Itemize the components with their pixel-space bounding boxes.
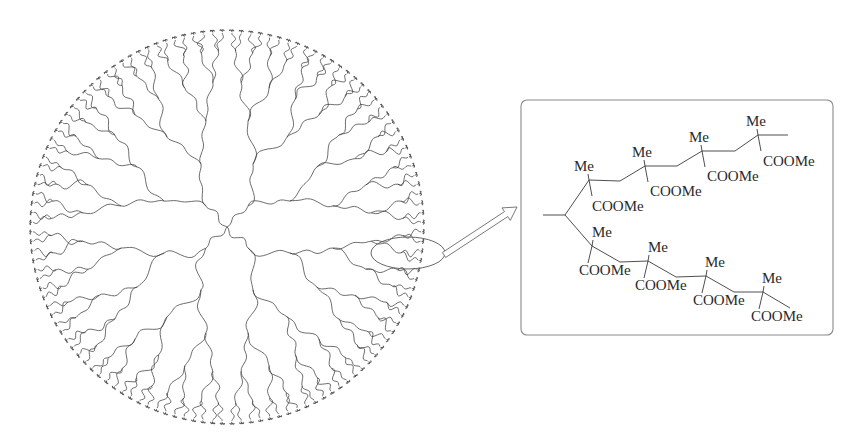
dendrimer-branch (247, 121, 256, 164)
dendrimer-branch (241, 371, 253, 401)
dendrimer-branch (339, 319, 368, 332)
ester-label: COOMe (751, 308, 803, 324)
terminal-group-icon (338, 386, 342, 389)
terminal-group-icon (55, 129, 58, 133)
dendrimer-branch (386, 302, 404, 307)
terminal-group-icon (210, 30, 214, 32)
terminal-group-icon (46, 146, 49, 150)
dendrimer-branch (53, 239, 83, 254)
dendrimer-branch (58, 131, 76, 137)
dendrimer-branch (83, 241, 121, 249)
dendrimer-branch (302, 54, 314, 68)
dendrimer-branch (317, 135, 339, 167)
dendrimer-branch (398, 174, 414, 186)
methyl-label: Me (762, 270, 782, 286)
dendrimer-branch (241, 333, 248, 371)
dendrimer-branch (183, 38, 187, 57)
terminal-group-icon (422, 210, 424, 214)
dendrimer-branch (93, 87, 109, 97)
terminal-group-icon (353, 77, 356, 80)
terminal-group-icon (154, 43, 158, 45)
dendrimer-branch (295, 68, 303, 99)
terminal-group-icon (386, 112, 389, 116)
ester-label: COOMe (579, 262, 631, 278)
terminal-group-icon (201, 421, 205, 423)
dendrimer-branch (403, 234, 421, 242)
terminal-group-icon (182, 34, 186, 36)
figure-canvas: MeMeMeMeCOOMeCOOMeCOOMeCOOMeMeMeMeMeCOOM… (0, 0, 853, 445)
terminal-group-icon (322, 397, 326, 400)
dendrimer-branch (54, 140, 68, 152)
dendrimer-branch (205, 333, 213, 371)
dendrimer-branch (333, 248, 366, 269)
terminal-group-icon (386, 338, 389, 342)
dendrimer-branch (88, 248, 121, 269)
dendrimer-branch (68, 152, 99, 159)
dendrimer-branch (200, 401, 206, 419)
dendrimer-branch (318, 63, 331, 76)
dendrimer-branch (287, 99, 295, 137)
terminal-group-icon (304, 405, 308, 407)
dendrimer-branch (227, 206, 248, 227)
dendrimer-branch (290, 199, 333, 207)
terminal-group-icon (65, 338, 68, 342)
terminal-group-icon (380, 104, 383, 108)
dendrimer-branch (235, 34, 241, 52)
terminal-group-icon (37, 277, 39, 281)
terminal-group-icon (412, 163, 414, 167)
dendrimer-branch (371, 211, 403, 219)
dendrimer-branch (137, 253, 164, 287)
terminal-group-icon (39, 163, 41, 167)
terminal-group-icon (128, 55, 132, 58)
dendrimer-branch (121, 200, 164, 207)
dendrimer-branch (332, 74, 347, 86)
terminal-group-icon (60, 330, 63, 334)
terminal-group-icon (97, 77, 101, 80)
dendrimer-branch (286, 393, 297, 408)
dendrimer-branch (269, 366, 286, 393)
dendrimer-branch (355, 137, 378, 159)
dendrimer-branch (270, 398, 279, 414)
terminal-group-icon (120, 391, 124, 394)
terminal-group-icon (104, 71, 108, 74)
terminal-group-icon (277, 36, 281, 38)
terminal-group-icon (405, 304, 408, 308)
dendrimer-branch (34, 212, 52, 219)
terminal-group-icon (83, 90, 87, 93)
dendrimer-branch (240, 83, 251, 121)
dendrimer-branch (366, 182, 398, 188)
terminal-group-icon (146, 405, 150, 408)
dendrimer-branch (68, 295, 99, 302)
terminal-group-icon (397, 128, 400, 132)
dendrimer-branch (345, 357, 354, 374)
terminal-group-icon (421, 249, 423, 253)
dendrimer-branch (86, 319, 115, 332)
dendrimer-branch (53, 201, 83, 213)
terminal-group-icon (346, 380, 350, 383)
dendrimer-branch (196, 248, 206, 290)
terminal-group-icon (421, 201, 423, 205)
dendrimer-branch (34, 235, 52, 242)
terminal-group-icon (30, 239, 32, 243)
dendrimer-branch (123, 63, 136, 76)
terminal-group-icon (50, 313, 52, 317)
dendrimer-branch (97, 319, 115, 345)
terminal-group-icon (230, 423, 234, 424)
dendrimer-branch (76, 137, 99, 159)
terminal-group-icon (258, 420, 262, 422)
terminal-group-icon (412, 286, 414, 290)
terminal-group-icon (367, 90, 370, 94)
dendrimer-branch (393, 166, 412, 170)
terminal-group-icon (71, 346, 74, 350)
dendrimer-diagram (30, 30, 425, 425)
terminal-group-icon (415, 172, 417, 176)
dendrimer-branch (295, 355, 303, 386)
methyl-label: Me (648, 239, 668, 255)
terminal-group-icon (249, 421, 253, 423)
dendrimer-branch (33, 232, 51, 236)
terminal-group-icon (77, 353, 80, 357)
dendrimer-branch (185, 88, 206, 121)
dendrimer-branch (121, 247, 164, 256)
dendrimer-branch (371, 235, 403, 242)
dendrimer-branch (137, 167, 164, 201)
